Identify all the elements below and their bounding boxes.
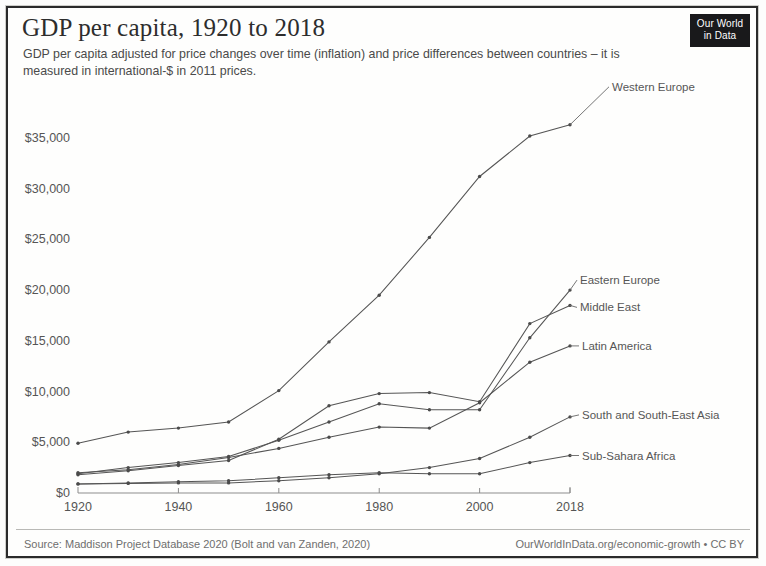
series-data-point[interactable] xyxy=(528,461,531,464)
series-line[interactable] xyxy=(78,417,570,484)
series-data-point[interactable] xyxy=(277,476,280,479)
series-data-point[interactable] xyxy=(277,447,280,450)
series-data-point[interactable] xyxy=(76,442,79,445)
series-data-point[interactable] xyxy=(428,426,431,429)
series-data-point[interactable] xyxy=(177,463,180,466)
series-data-point[interactable] xyxy=(277,479,280,482)
series-label[interactable]: Latin America xyxy=(582,340,652,352)
series-data-point[interactable] xyxy=(478,401,481,404)
series-data-point[interactable] xyxy=(528,336,531,339)
series-data-point[interactable] xyxy=(428,391,431,394)
series-data-point[interactable] xyxy=(227,459,230,462)
series-label[interactable]: Eastern Europe xyxy=(580,274,660,286)
series-data-point[interactable] xyxy=(277,389,280,392)
series-data-point[interactable] xyxy=(127,468,130,471)
y-axis-tick-label: $30,000 xyxy=(25,182,70,196)
series-data-point[interactable] xyxy=(528,134,531,137)
series-data-point[interactable] xyxy=(478,408,481,411)
y-axis-tick-label: $20,000 xyxy=(25,283,70,297)
credit-note[interactable]: OurWorldInData.org/economic-growth • CC … xyxy=(515,538,744,550)
series-data-point[interactable] xyxy=(327,473,330,476)
series-data-point[interactable] xyxy=(76,471,79,474)
chart-plot-area: $0$5,000$10,000$15,000$20,000$25,000$30,… xyxy=(0,0,766,566)
series-data-point[interactable] xyxy=(327,436,330,439)
chart-page: GDP per capita, 1920 to 2018 GDP per cap… xyxy=(0,0,766,566)
series-data-point[interactable] xyxy=(478,175,481,178)
series-data-point[interactable] xyxy=(378,471,381,474)
series-label[interactable]: Middle East xyxy=(580,301,641,313)
series-data-point[interactable] xyxy=(378,402,381,405)
series-data-point[interactable] xyxy=(528,436,531,439)
series-data-point[interactable] xyxy=(327,404,330,407)
y-axis-tick-label: $25,000 xyxy=(25,232,70,246)
series-label[interactable]: Western Europe xyxy=(612,81,695,93)
series-line[interactable] xyxy=(78,456,570,484)
y-axis-tick-label: $15,000 xyxy=(25,334,70,348)
series-data-point[interactable] xyxy=(428,236,431,239)
x-axis-tick-label: 2000 xyxy=(466,500,494,514)
series-line[interactable] xyxy=(78,125,570,444)
series-data-point[interactable] xyxy=(428,472,431,475)
x-axis: 192019401960198020002018 xyxy=(64,487,584,514)
series-data-point[interactable] xyxy=(378,294,381,297)
series-data-point[interactable] xyxy=(327,476,330,479)
series-data-point[interactable] xyxy=(327,340,330,343)
series-data-point[interactable] xyxy=(227,479,230,482)
series-data-point[interactable] xyxy=(428,408,431,411)
series-data-point[interactable] xyxy=(277,438,280,441)
x-axis-line xyxy=(78,487,570,493)
series-line[interactable] xyxy=(78,290,570,474)
series-label-leader xyxy=(570,280,577,290)
series-label-leader xyxy=(570,87,609,125)
x-axis-tick-label: 1940 xyxy=(165,500,193,514)
y-axis-tick-label: $10,000 xyxy=(25,385,70,399)
footer-divider xyxy=(16,529,750,530)
series-label[interactable]: South and South-East Asia xyxy=(582,409,720,421)
series-data-point[interactable] xyxy=(327,420,330,423)
series-data-point[interactable] xyxy=(127,481,130,484)
x-axis-tick-label: 1980 xyxy=(365,500,393,514)
x-axis-tick-label: 1920 xyxy=(64,500,92,514)
x-axis-tick-label: 1960 xyxy=(265,500,293,514)
series-data-point[interactable] xyxy=(528,361,531,364)
series-data-point[interactable] xyxy=(177,426,180,429)
series-data-point[interactable] xyxy=(177,480,180,483)
series-data-point[interactable] xyxy=(428,466,431,469)
series-data-point[interactable] xyxy=(378,425,381,428)
series-label-layer: Western EuropeEastern EuropeMiddle EastL… xyxy=(570,81,720,462)
x-axis-tick-label: 2018 xyxy=(556,500,584,514)
y-axis-tick-label: $35,000 xyxy=(25,131,70,145)
series-layer xyxy=(76,123,571,485)
y-axis-tick-label: $0 xyxy=(56,486,70,500)
series-data-point[interactable] xyxy=(478,457,481,460)
y-axis-tick-label: $5,000 xyxy=(32,435,70,449)
series-data-point[interactable] xyxy=(127,430,130,433)
y-axis: $0$5,000$10,000$15,000$20,000$25,000$30,… xyxy=(25,131,70,500)
series-data-point[interactable] xyxy=(478,472,481,475)
series-data-point[interactable] xyxy=(227,456,230,459)
series-data-point[interactable] xyxy=(378,392,381,395)
source-note: Source: Maddison Project Database 2020 (… xyxy=(24,538,370,550)
series-line[interactable] xyxy=(78,305,570,474)
series-data-point[interactable] xyxy=(76,482,79,485)
series-label[interactable]: Sub-Sahara Africa xyxy=(582,450,676,462)
series-data-point[interactable] xyxy=(227,420,230,423)
series-data-point[interactable] xyxy=(528,322,531,325)
